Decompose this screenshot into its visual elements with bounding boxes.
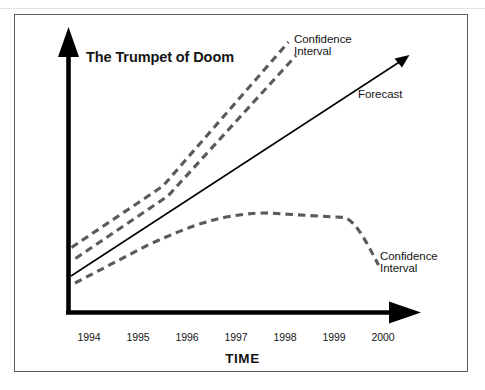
forecast-line — [71, 59, 404, 276]
x-axis-tick-labels: 1994 1995 1996 1997 1998 1999 2000 — [0, 331, 485, 345]
confidence-upper-outer-line — [72, 42, 289, 248]
confidence-interval-lower-label-line2: Interval — [380, 262, 438, 274]
confidence-interval-upper-group — [72, 42, 297, 259]
forecast-arrowhead — [395, 55, 410, 68]
x-tick-1998: 1998 — [262, 331, 308, 343]
confidence-interval-upper-label-line2: Interval — [294, 45, 352, 57]
x-axis-title: TIME — [0, 352, 485, 367]
confidence-interval-upper-label: Confidence Interval — [294, 33, 352, 58]
axis-group — [58, 27, 421, 324]
figure-root: The Trumpet of Doom Confidence Interval … — [0, 0, 485, 390]
y-axis-arrowhead — [58, 27, 79, 57]
x-tick-2000: 2000 — [360, 331, 406, 343]
x-tick-1994: 1994 — [66, 331, 112, 343]
x-tick-1999: 1999 — [311, 331, 357, 343]
confidence-lower-line — [75, 213, 379, 283]
x-axis-arrowhead — [389, 302, 421, 324]
forecast-label: Forecast — [358, 88, 402, 100]
confidence-upper-inner-line — [76, 56, 297, 259]
confidence-interval-upper-label-line1: Confidence — [294, 33, 352, 45]
confidence-interval-lower-label-line1: Confidence — [380, 250, 438, 262]
confidence-interval-lower-group — [75, 213, 379, 283]
x-tick-1996: 1996 — [164, 331, 210, 343]
confidence-interval-lower-label: Confidence Interval — [380, 250, 438, 275]
x-tick-1997: 1997 — [213, 331, 259, 343]
x-tick-1995: 1995 — [115, 331, 161, 343]
page-title: The Trumpet of Doom — [86, 50, 234, 66]
